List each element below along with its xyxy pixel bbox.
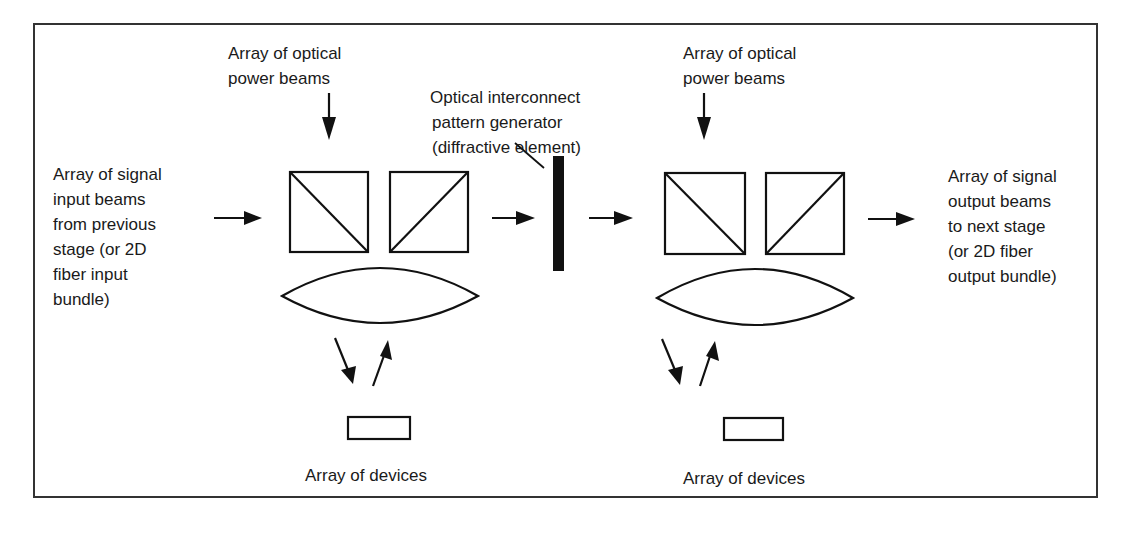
beam-splitter-right-2 bbox=[766, 173, 844, 254]
input-arrow-icon bbox=[214, 211, 262, 225]
output-arrow-icon bbox=[868, 212, 915, 226]
device-array-right bbox=[724, 418, 783, 440]
arrow-from-diffractive-icon bbox=[589, 211, 633, 225]
beam-splitter-right-1 bbox=[665, 173, 745, 254]
power-beams-label-left: Array of optical power beams bbox=[228, 44, 346, 88]
power-beam-arrow-right-icon bbox=[697, 93, 711, 140]
output-beams-label: Array of signal output beams to next sta… bbox=[948, 167, 1061, 286]
device-arrows-left-icon bbox=[335, 338, 392, 386]
device-array-left bbox=[348, 417, 410, 439]
devices-label-right: Array of devices bbox=[683, 469, 805, 488]
input-beams-label: Array of signal input beams from previou… bbox=[53, 165, 166, 309]
diffractive-element bbox=[553, 156, 564, 271]
power-beams-label-right: Array of optical power beams bbox=[683, 44, 801, 88]
lens-left bbox=[282, 268, 478, 323]
pattern-generator-label: Optical interconnect pattern generator (… bbox=[430, 88, 585, 157]
lens-right bbox=[657, 269, 853, 325]
beam-splitter-left-2 bbox=[390, 172, 468, 252]
devices-label-left: Array of devices bbox=[305, 466, 427, 485]
device-arrows-right-icon bbox=[662, 339, 719, 386]
optical-interconnect-diagram: Array of signal input beams from previou… bbox=[0, 0, 1131, 533]
power-beam-arrow-left-icon bbox=[322, 93, 336, 140]
arrow-to-diffractive-icon bbox=[492, 211, 535, 225]
beam-splitter-left-1 bbox=[290, 172, 368, 252]
